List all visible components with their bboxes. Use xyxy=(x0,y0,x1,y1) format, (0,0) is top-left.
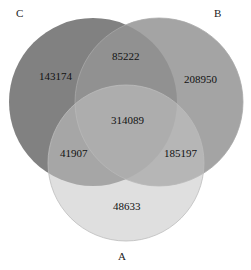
set-label-c: C xyxy=(16,7,23,19)
region-a-only: 48633 xyxy=(113,200,141,212)
region-ab: 185197 xyxy=(164,147,198,159)
venn-diagram: C B A 143174 85222 208950 314089 41907 1… xyxy=(0,0,251,270)
region-ac: 41907 xyxy=(60,147,88,159)
set-label-a: A xyxy=(118,250,126,262)
region-b-only: 208950 xyxy=(184,73,218,85)
region-bc: 85222 xyxy=(112,50,140,62)
region-abc: 314089 xyxy=(111,114,145,126)
set-a-circle xyxy=(48,85,204,241)
set-label-b: B xyxy=(214,7,221,19)
region-c-only: 143174 xyxy=(39,70,73,82)
